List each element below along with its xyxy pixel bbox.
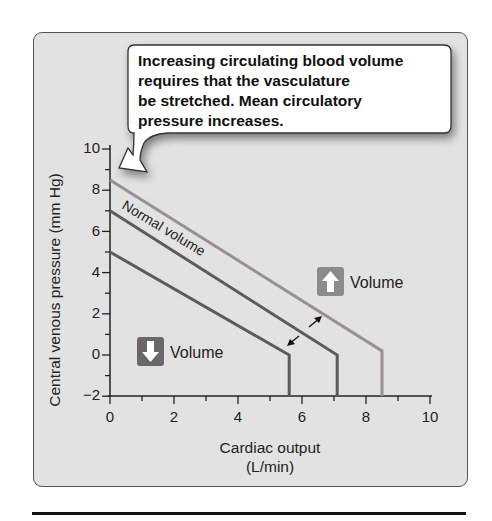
y-tick-label: 4 [92, 263, 100, 280]
x-tick-label: 6 [298, 408, 306, 425]
callout-line: Increasing circulating blood volume [138, 52, 404, 69]
y-tick-labels: 10 8 6 4 2 0 −2 [83, 139, 100, 403]
x-tick-label: 4 [234, 408, 242, 425]
curve-normal-volume [110, 211, 337, 396]
y-tick-label: 10 [83, 139, 100, 156]
y-axis [102, 145, 110, 396]
x-tick-labels: 0 2 4 6 8 10 [106, 408, 439, 425]
x-axis-title-line1: Cardiac output [220, 439, 322, 456]
y-tick-label: 0 [92, 345, 100, 362]
shift-arrow-up-icon [309, 316, 322, 327]
increased-volume-indicator: Volume [317, 267, 403, 296]
x-tick-label: 0 [106, 408, 114, 425]
y-tick-label: 8 [92, 180, 100, 197]
curve-decreased-volume [110, 252, 289, 396]
x-axis [108, 396, 432, 404]
y-tick-label: 6 [92, 222, 100, 239]
bottom-rule [32, 512, 466, 515]
y-tick-label: −2 [83, 386, 100, 403]
decreased-volume-label: Volume [170, 344, 223, 361]
x-axis-title-line2: (L/min) [246, 458, 294, 475]
callout-line: pressure increases. [138, 112, 284, 129]
callout-line: be stretched. Mean circulatory [138, 92, 362, 109]
y-tick-label: 2 [92, 304, 100, 321]
decreased-volume-indicator: Volume [137, 337, 223, 366]
x-tick-label: 8 [362, 408, 370, 425]
x-tick-label: 10 [422, 408, 439, 425]
normal-volume-label: Normal volume [119, 197, 208, 259]
y-axis-title: Central venous pressure (mm Hg) [46, 173, 63, 406]
chart: 10 8 6 4 2 0 −2 0 2 4 6 8 10 Central ven… [0, 0, 492, 521]
x-tick-label: 2 [170, 408, 178, 425]
increased-volume-label: Volume [350, 274, 403, 291]
callout-line: requires that the vasculature [138, 72, 350, 89]
shift-arrow-down-icon [287, 336, 299, 346]
